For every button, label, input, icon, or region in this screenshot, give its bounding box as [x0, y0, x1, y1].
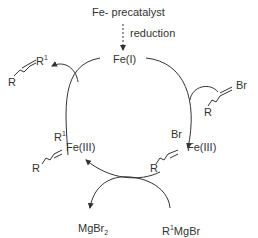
product-r1: R1 — [36, 52, 48, 67]
left-int-fe: Fe(III) — [66, 141, 95, 153]
substrate-br: Br — [236, 79, 247, 91]
right-int-fe: Fe(III) — [187, 141, 216, 153]
product-r: R — [8, 76, 16, 88]
left-intermediate-alkene — [42, 150, 62, 164]
product-alkene — [14, 63, 36, 76]
right-int-r: R — [150, 162, 158, 174]
transmetalation-arc-bottom — [90, 177, 170, 208]
cycle-diagram — [0, 0, 258, 238]
substrate-alkene — [208, 90, 232, 106]
right-int-br: Br — [171, 128, 182, 140]
transmetalation-arc-top — [86, 160, 160, 178]
fe-i-catalyst: Fe(I) — [113, 53, 136, 65]
reagent-r1mgbr: R1MgBr — [162, 222, 200, 237]
left-int-r1: R1 — [54, 128, 66, 143]
left-int-r: R — [32, 162, 40, 174]
reductive-elimination-arrow — [52, 64, 78, 82]
right-intermediate-alkene — [156, 150, 178, 164]
precatalyst-label: Fe- precatalyst — [92, 6, 165, 18]
byproduct-mgbr2: MgBr2 — [78, 222, 108, 238]
reduction-label: reduction — [130, 27, 175, 39]
oxidative-addition-arrow — [190, 86, 218, 100]
cycle-arc-right — [146, 58, 191, 148]
substrate-r: R — [204, 106, 212, 118]
